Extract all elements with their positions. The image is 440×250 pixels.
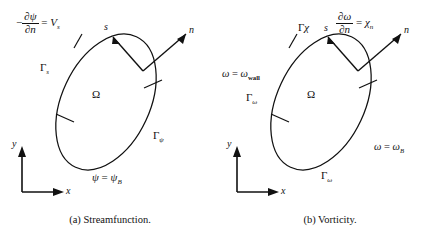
x-axis-label: x <box>281 186 285 196</box>
panel-a-graphics <box>0 0 220 250</box>
gamma-psi-subscript: ψ <box>159 136 163 144</box>
neumann-equals: = <box>41 16 47 28</box>
x-axis-arrowhead <box>53 188 64 196</box>
dirichlet-vorticity-equals: = <box>384 141 390 152</box>
boundary-label-gamma-chi: Γχ <box>298 22 309 33</box>
panel-vorticity: Γχ s ∂ω∂n = χn n ω = ωwall Γω Ω ω = ωB <box>220 0 440 250</box>
gamma-s-subscript: s <box>46 68 49 76</box>
condition-dirichlet-streamfunction: ψ = ψB <box>92 172 122 186</box>
wall-vorticity-equals: = <box>232 68 238 79</box>
condition-dirichlet-vorticity: ω = ωB <box>374 142 404 155</box>
domain-boundary-ellipse <box>36 18 177 186</box>
y-axis-label: y <box>12 139 16 149</box>
boundary-label-gamma-omega-bottom: Γω <box>321 170 332 184</box>
tangent-vector-arrowhead <box>112 37 120 44</box>
panel-streamfunction: −∂ψ∂n = Vs s n Γs Ω Γψ ψ = ψB y x (a) St… <box>0 0 220 250</box>
neumann-numerator: ∂ψ <box>22 11 38 23</box>
normal-vector-label: n <box>404 25 409 35</box>
boundary-tick-right <box>359 80 377 88</box>
wall-vorticity-lhs: ω <box>222 68 229 79</box>
domain-label-omega: Ω <box>92 89 100 100</box>
dirichlet-vorticity-rhs-subscript: B <box>400 147 404 154</box>
dirichlet-lhs: ψ <box>92 171 99 183</box>
panel-b-caption: (b) Vorticity. <box>220 214 440 225</box>
figure-container: −∂ψ∂n = Vs s n Γs Ω Γψ ψ = ψB y x (a) St… <box>0 0 440 250</box>
neumann-vorticity-rhs-subscript: n <box>370 23 374 31</box>
boundary-label-gamma-psi: Γψ <box>153 130 164 144</box>
wall-vorticity-rhs-subscript: wall <box>248 74 260 81</box>
neumann-vorticity-equals: = <box>356 16 362 28</box>
y-axis-label: y <box>227 139 231 149</box>
dirichlet-vorticity-rhs: ω <box>393 141 400 152</box>
gamma-omega-bottom-subscript: ω <box>327 176 332 184</box>
neumann-vorticity-denominator: ∂n <box>336 23 353 36</box>
dirichlet-rhs-subscript: B <box>117 178 121 186</box>
boundary-label-gamma-omega-left: Γω <box>246 92 257 106</box>
neumann-vorticity-fraction: ∂ω∂n <box>336 11 353 35</box>
panel-a-caption: (a) Streamfunction. <box>0 214 220 225</box>
neumann-rhs-subscript: s <box>57 23 60 31</box>
condition-neumann-streamfunction: −∂ψ∂n = Vs <box>16 11 60 35</box>
condition-neumann-vorticity: ∂ω∂n = χn <box>336 11 373 35</box>
dirichlet-vorticity-lhs: ω <box>374 141 381 152</box>
boundary-tick-top <box>289 34 297 48</box>
gamma-chi-subscript: χ <box>304 21 309 33</box>
tangent-vector-label: s <box>104 22 108 32</box>
neumann-vorticity-numerator: ∂ω <box>336 11 353 23</box>
y-axis-arrowhead <box>18 146 26 157</box>
boundary-tick-top <box>74 34 82 48</box>
gamma-omega-left-subscript: ω <box>252 98 257 106</box>
neumann-denominator: ∂n <box>22 23 38 36</box>
boundary-tick-left <box>271 114 289 122</box>
tangent-vector-arrowhead <box>327 37 335 44</box>
boundary-tick-left <box>56 114 74 122</box>
tangent-vector-label: s <box>324 23 328 33</box>
x-axis-label: x <box>66 186 70 196</box>
wall-vorticity-rhs: ω <box>241 68 248 79</box>
domain-label-omega: Ω <box>307 89 315 100</box>
dirichlet-equals: = <box>102 171 108 183</box>
neumann-fraction: ∂ψ∂n <box>22 11 38 35</box>
y-axis-arrowhead <box>233 146 241 157</box>
normal-vector-arrowhead <box>392 34 401 44</box>
x-axis-arrowhead <box>268 188 279 196</box>
boundary-label-gamma-s: Γs <box>40 62 49 76</box>
normal-vector-arrowhead <box>177 34 186 44</box>
normal-vector-label: n <box>189 25 194 35</box>
domain-boundary-ellipse <box>251 18 392 186</box>
panel-b-graphics <box>220 0 440 250</box>
condition-wall-vorticity: ω = ωwall <box>222 69 260 82</box>
boundary-tick-right <box>144 80 162 88</box>
neumann-rhs: V <box>50 16 57 28</box>
